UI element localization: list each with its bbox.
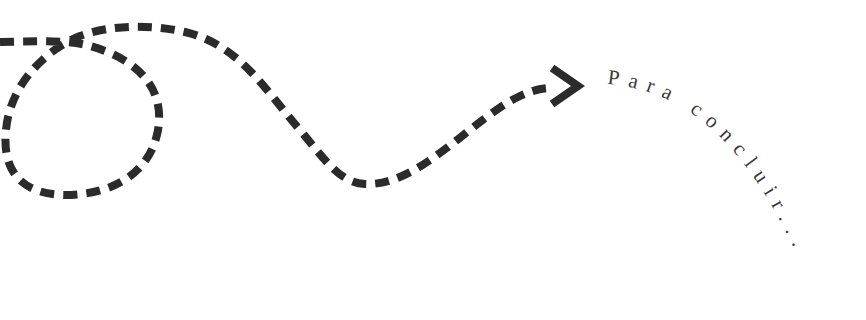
- diagram-canvas: Para concluir...: [0, 0, 866, 320]
- dashed-loop-path: [0, 27, 552, 195]
- arrowhead-icon: [552, 68, 578, 104]
- caption-text: Para concluir...: [606, 65, 814, 258]
